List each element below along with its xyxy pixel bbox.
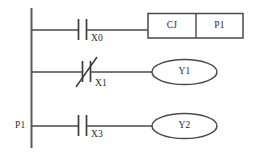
ladder-diagram: X0 CJ P1 X1 Y1 P1 X3 Y2 xyxy=(0,0,256,156)
coil-label-y2: Y2 xyxy=(152,121,217,131)
contact-label-x3: X3 xyxy=(91,130,103,140)
coil-label-y1: Y1 xyxy=(152,67,217,77)
rung-label-p1: P1 xyxy=(15,121,25,131)
contact-label-x0: X0 xyxy=(91,34,103,44)
instruction-box-instruction-text: CJ xyxy=(148,21,196,31)
instruction-box-operand-text: P1 xyxy=(196,21,243,31)
contact-label-x1: X1 xyxy=(95,79,107,89)
